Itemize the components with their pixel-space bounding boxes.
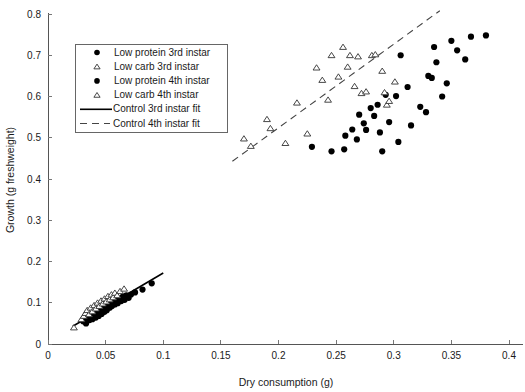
data-point-triangle — [328, 52, 335, 57]
data-point-filled — [132, 289, 138, 295]
data-point-filled — [417, 104, 423, 110]
data-point-triangle — [355, 54, 362, 59]
data-point-filled — [404, 84, 410, 90]
data-point-filled — [371, 113, 377, 119]
x-tick-label-8: 0.4 — [502, 350, 516, 361]
legend-item-label-4: Control 3rd instar fit — [113, 103, 200, 114]
data-point-triangle — [351, 83, 358, 88]
data-point-filled — [423, 109, 429, 115]
data-point-filled — [356, 112, 362, 118]
data-point-filled — [342, 133, 348, 139]
data-point-filled — [354, 136, 360, 142]
data-point-filled — [341, 146, 347, 152]
data-point-triangle — [304, 131, 311, 136]
y-axis-title: Growth (g freshweight) — [4, 127, 16, 233]
data-point-filled — [375, 102, 381, 108]
x-tick-label-3: 0.15 — [211, 350, 231, 361]
scatter-plot-figure: 00.050.10.150.20.250.30.350.4 00.10.20.3… — [0, 0, 525, 392]
data-point-triangle — [282, 140, 289, 145]
data-point-filled — [379, 148, 385, 154]
legend-item-label-3: Low carb 4th instar — [114, 89, 199, 100]
data-point-filled — [361, 120, 367, 126]
legend-item-label-5: Control 4th instar fit — [113, 118, 200, 129]
data-point-filled — [448, 38, 454, 44]
x-tick-label-0: 0 — [45, 350, 51, 361]
legend-item-label-1: Low carb 3rd instar — [114, 61, 200, 72]
x-tick-label-6: 0.3 — [387, 350, 401, 361]
data-point-triangle — [319, 77, 326, 82]
legend-item-label-2: Low protein 4th instar — [114, 75, 210, 86]
data-point-triangle — [363, 89, 370, 94]
x-axis-title: Dry consumption (g) — [239, 376, 334, 388]
data-point-triangle — [313, 65, 320, 70]
data-point-filled — [444, 80, 450, 86]
y-axis-tick-labels: 00.10.20.30.40.50.60.70.8 — [27, 9, 41, 350]
data-point-filled — [386, 119, 392, 125]
series-3-markers — [240, 44, 398, 148]
x-tick-label-5: 0.25 — [326, 350, 346, 361]
data-point-triangle — [379, 68, 386, 73]
x-tick-label-4: 0.2 — [272, 350, 286, 361]
y-tick-label-8: 0.8 — [27, 9, 41, 20]
data-point-triangle — [267, 125, 274, 130]
data-point-triangle — [340, 44, 347, 49]
data-point-triangle — [386, 98, 393, 103]
y-tick-label-5: 0.5 — [27, 132, 41, 143]
data-point-filled — [454, 47, 460, 53]
data-point-filled — [393, 93, 399, 99]
data-point-triangle — [344, 64, 351, 69]
data-point-filled — [398, 52, 404, 58]
data-point-triangle — [325, 97, 332, 102]
data-point-triangle — [264, 116, 271, 121]
legend-filled-circle-icon — [94, 78, 100, 84]
data-point-filled — [468, 34, 474, 40]
legend-filled-circle-icon — [94, 50, 100, 56]
data-point-filled — [139, 286, 145, 292]
data-point-filled — [408, 122, 414, 128]
y-tick-label-3: 0.3 — [27, 215, 41, 226]
y-tick-label-0: 0 — [35, 339, 41, 350]
data-point-filled — [149, 280, 155, 286]
legend[interactable]: Low protein 3rd instarLow carb 3rd insta… — [75, 44, 227, 132]
y-tick-label-4: 0.4 — [27, 174, 41, 185]
y-tick-label-1: 0.1 — [27, 297, 41, 308]
data-point-filled — [483, 32, 489, 38]
data-point-triangle — [240, 136, 247, 141]
data-point-triangle — [335, 74, 342, 79]
data-point-filled — [431, 44, 437, 50]
x-axis-tick-labels: 00.050.10.150.20.250.30.350.4 — [45, 350, 516, 361]
y-tick-label-6: 0.6 — [27, 91, 41, 102]
data-point-filled — [395, 139, 401, 145]
data-point-triangle — [347, 52, 354, 57]
data-point-triangle — [294, 100, 301, 105]
y-tick-label-2: 0.2 — [27, 256, 41, 267]
data-point-filled — [309, 144, 315, 150]
data-point-filled — [363, 127, 369, 133]
legend-item-label-0: Low protein 3rd instar — [114, 47, 211, 58]
data-point-filled — [462, 56, 468, 62]
x-tick-label-1: 0.05 — [96, 350, 116, 361]
data-point-triangle — [70, 325, 77, 330]
data-point-filled — [433, 59, 439, 65]
data-point-triangle — [391, 79, 398, 84]
plot-canvas: 00.050.10.150.20.250.30.350.4 00.10.20.3… — [0, 0, 525, 392]
series-0-markers — [80, 280, 155, 326]
series-2-markers — [309, 32, 489, 154]
data-point-filled — [377, 129, 383, 135]
x-tick-label-7: 0.35 — [442, 350, 462, 361]
y-tick-label-7: 0.7 — [27, 50, 41, 61]
data-point-filled — [349, 126, 355, 132]
data-point-triangle — [121, 286, 128, 291]
data-point-filled — [328, 148, 334, 154]
data-point-filled — [368, 105, 374, 111]
data-point-filled — [429, 75, 435, 81]
x-tick-label-2: 0.1 — [156, 350, 170, 361]
data-point-filled — [439, 93, 445, 99]
